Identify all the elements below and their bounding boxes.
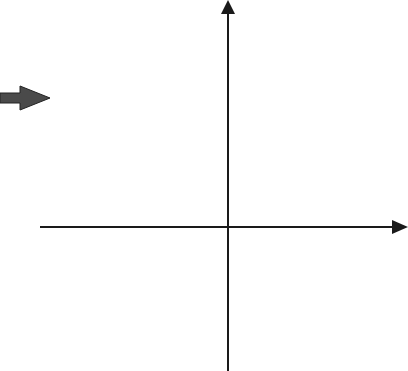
x-axis-arrowhead <box>392 220 408 234</box>
figure <box>0 0 408 371</box>
y-axis-arrowhead <box>221 0 235 14</box>
right-arrow-icon <box>0 86 50 110</box>
parabola-chart <box>0 0 408 371</box>
